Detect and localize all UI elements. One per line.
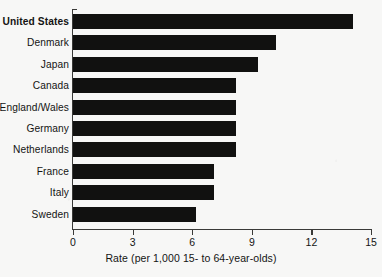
x-tick-label: 6 [177,236,207,248]
category-label: United States [3,16,69,27]
category-label: Denmark [27,37,69,48]
category-label: Italy [50,187,69,198]
x-tick-mark [311,230,312,235]
x-axis-title: Rate (per 1,000 15- to 64-year-olds) [0,252,382,265]
x-tick-label: 9 [237,236,267,248]
horizontal-bar-chart: United StatesDenmarkJapanCanadaEngland/W… [0,0,382,277]
x-tick-mark [192,230,193,235]
category-label: England/Wales [0,102,69,113]
x-tick-mark [133,230,134,235]
bar [73,142,236,157]
bar [73,121,236,136]
category-label: Canada [33,80,69,91]
category-label: Germany [26,123,69,134]
x-tick-mark [73,230,74,235]
x-tick-label: 15 [356,236,382,248]
x-tick-mark [252,230,253,235]
bar [73,164,214,179]
bar [73,185,214,200]
bar [73,78,236,93]
x-tick-label: 12 [296,236,326,248]
category-label: Sweden [32,209,69,220]
x-axis-line [72,229,372,230]
bar [73,14,353,29]
x-tick-mark [371,230,372,235]
category-label: Japan [41,59,69,70]
category-label: France [37,166,69,177]
category-label: Netherlands [13,144,69,155]
bar [73,207,196,222]
x-tick-label: 0 [58,236,88,248]
bar [73,35,276,50]
x-tick-label: 3 [118,236,148,248]
bar [73,57,258,72]
bar [73,100,236,115]
